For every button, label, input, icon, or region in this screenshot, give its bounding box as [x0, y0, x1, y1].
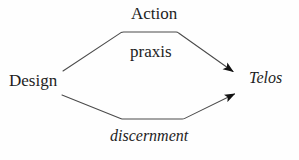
path-heading-action: Action: [131, 5, 177, 22]
diagram-canvas: Design Action praxis discernment Telos: [0, 0, 299, 160]
node-label-telos: Telos: [249, 70, 282, 86]
path-label-praxis: praxis: [130, 43, 172, 60]
node-label-design: Design: [9, 72, 57, 89]
lower-path-arrow: [62, 94, 235, 119]
path-label-discernment: discernment: [110, 128, 188, 144]
